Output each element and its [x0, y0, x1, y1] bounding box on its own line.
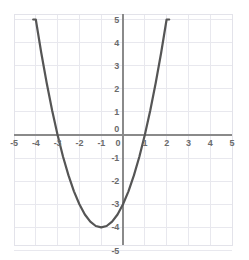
y-tick-label: 5: [114, 15, 119, 24]
y-tick-label: -5: [111, 246, 119, 255]
x-tick-label: -1: [97, 139, 105, 148]
parabola-chart: -5-4-3-2-1012345 543210-1-2-3-4-5: [0, 0, 249, 260]
x-tick-label: -3: [54, 139, 62, 148]
x-tick-label: 2: [164, 139, 169, 148]
x-tick-label: -4: [32, 139, 40, 148]
y-tick-label: 2: [114, 84, 119, 93]
y-tick-label: 1: [114, 107, 119, 116]
x-tick-label: -5: [10, 139, 18, 148]
y-tick-label: 0: [114, 125, 119, 134]
x-tick-label: -2: [76, 139, 84, 148]
chart-canvas: [0, 0, 249, 260]
y-tick-label: -3: [111, 200, 119, 209]
y-tick-label: -2: [111, 177, 119, 186]
x-tick-label: 4: [208, 139, 213, 148]
y-tick-label: 4: [114, 38, 119, 47]
x-tick-label: 0: [116, 139, 121, 148]
y-tick-label: 3: [114, 61, 119, 70]
x-tick-label: 1: [142, 139, 147, 148]
x-tick-label: 5: [230, 139, 235, 148]
y-tick-label: -1: [111, 154, 119, 163]
x-tick-label: 3: [186, 139, 191, 148]
axis-lines: [14, 14, 232, 245]
y-tick-label: -4: [111, 223, 119, 232]
